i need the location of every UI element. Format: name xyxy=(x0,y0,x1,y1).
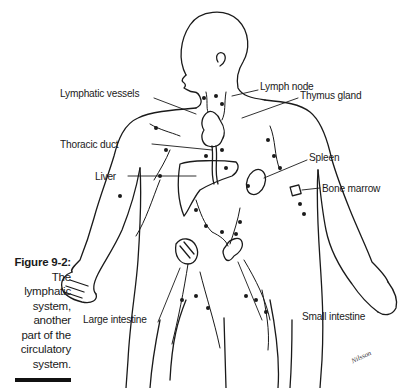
caption-line: part of the xyxy=(0,328,71,343)
label-small-intestine: Small intestine xyxy=(302,310,365,322)
ear xyxy=(217,53,226,66)
large-intestine xyxy=(176,239,198,264)
spleen xyxy=(243,167,269,198)
leader-lines xyxy=(128,90,320,322)
bone-marrow xyxy=(290,185,301,196)
label-thymus-gland: Thymus gland xyxy=(300,89,361,101)
head-outline xyxy=(181,12,265,100)
label-thoracic-duct: Thoracic duct xyxy=(60,138,118,150)
label-bone-marrow: Bone marrow xyxy=(322,182,380,194)
caption-line: system. xyxy=(0,357,71,372)
caption-divider xyxy=(15,378,71,382)
label-liver: Liver xyxy=(95,170,116,182)
figure-number: Figure 9-2: xyxy=(0,255,71,270)
caption-line: circulatory xyxy=(0,342,71,357)
liver xyxy=(178,161,238,216)
lymph-nodes xyxy=(118,94,306,314)
artist-signature: Nilsson xyxy=(349,349,373,366)
left-arm-inner xyxy=(94,168,140,294)
caption-line: lymphatic xyxy=(0,284,71,299)
label-spleen: Spleen xyxy=(309,151,339,163)
face-profile xyxy=(182,75,201,108)
caption-line: another xyxy=(0,313,71,328)
figure-caption: Figure 9-2: The lymphatic system, anothe… xyxy=(0,255,71,371)
caption-line: system, xyxy=(0,299,71,314)
right-hand xyxy=(378,282,397,315)
thoracic-duct-path xyxy=(212,146,218,184)
left-shoulder xyxy=(71,108,196,272)
thymus xyxy=(202,111,224,146)
caption-line: The xyxy=(0,270,71,285)
label-lymphatic-vessels: Lymphatic vessels xyxy=(60,87,139,99)
torso-left xyxy=(126,168,141,388)
label-large-intestine: Large intestine xyxy=(83,313,147,325)
